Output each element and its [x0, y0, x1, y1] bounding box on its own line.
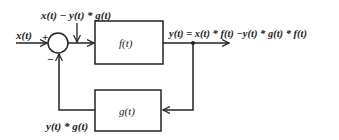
- sum-minus-sign: −: [47, 54, 53, 65]
- input-label: x(t): [16, 30, 32, 41]
- forward-block-label: f(t): [119, 38, 132, 49]
- feedback-path-left: [59, 54, 95, 110]
- summing-junction: [48, 33, 68, 53]
- error-label: x(t) − y(t) * g(t): [41, 10, 111, 21]
- feedback-label: y(t) * g(t): [46, 121, 88, 132]
- feedback-path-right: [163, 43, 193, 110]
- output-label: y(t) = x(t) * f(t) −y(t) * g(t) * f(t): [169, 29, 307, 40]
- diagram-canvas: [0, 0, 339, 140]
- sum-plus-sign: +: [42, 32, 48, 43]
- feedback-block-label: g(t): [119, 106, 135, 117]
